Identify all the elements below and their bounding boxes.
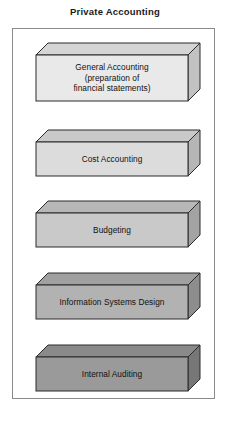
box-front-face (36, 142, 188, 176)
process-box (36, 273, 200, 319)
process-box (36, 201, 200, 247)
box-top-face (36, 201, 200, 213)
box-front-face (36, 213, 188, 247)
private-accounting-diagram: Private Accounting General Accounting (p… (0, 0, 230, 422)
box-front-face (36, 55, 188, 101)
box-top-face (36, 273, 200, 285)
box-top-face (36, 345, 200, 357)
process-box (36, 43, 200, 101)
box-front-face (36, 285, 188, 319)
box-top-face (36, 130, 200, 142)
box-front-face (36, 357, 188, 391)
process-box (36, 345, 200, 391)
process-box (36, 130, 200, 176)
box-stack (0, 0, 230, 422)
box-top-face (36, 43, 200, 55)
